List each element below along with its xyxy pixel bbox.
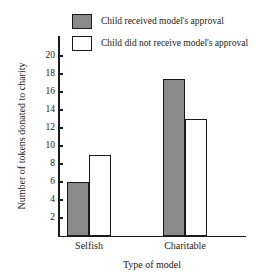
y-axis-tick-label: 10 [46, 140, 56, 151]
bar-charitable-not-received [185, 119, 207, 236]
bar-charitable-received [163, 79, 185, 237]
y-axis-tick [58, 91, 63, 93]
y-axis-tick [58, 181, 63, 183]
y-axis-tick-label: 8 [50, 158, 55, 169]
bar-selfish-received [67, 182, 89, 236]
y-axis-tick [58, 163, 63, 165]
y-axis-tick [58, 73, 63, 75]
bar-selfish-not-received [89, 155, 111, 236]
y-axis-tick-label: 2 [50, 212, 55, 223]
y-axis-tick [58, 127, 63, 129]
y-axis-tick-label: 20 [46, 50, 56, 61]
y-axis-line [58, 36, 60, 237]
y-axis-tick [58, 55, 63, 57]
x-tick-label-selfish: Selfish [49, 240, 129, 252]
y-axis-tick-label: 6 [50, 176, 55, 187]
y-axis-tick-label: 16 [46, 86, 56, 97]
y-axis-tick [58, 217, 63, 219]
x-tick-label-charitable: Charitable [145, 240, 225, 252]
x-axis-title: Type of model [58, 259, 246, 271]
y-axis-tick [58, 145, 63, 147]
y-axis-tick-label: 18 [46, 68, 56, 79]
y-axis-tick-label: 12 [46, 122, 56, 133]
y-axis-tick [58, 199, 63, 201]
y-axis-title: Number of tokens donated to charity [16, 51, 28, 221]
bar-chart: Child received model's approval Child di… [0, 0, 275, 276]
y-axis-tick-label: 4 [50, 194, 55, 205]
y-axis-tick [58, 109, 63, 111]
plot-area: 2468101214161820 Selfish Charitable Numb… [0, 0, 275, 276]
y-axis-tick-label: 14 [46, 104, 56, 115]
